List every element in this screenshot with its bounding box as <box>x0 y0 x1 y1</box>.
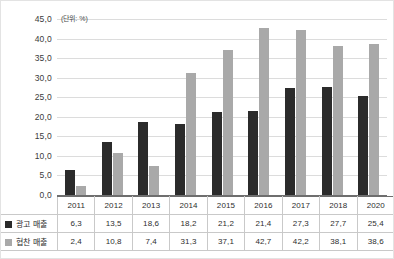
cell-2018-series-1: 38,1 <box>320 233 357 251</box>
bar-2015-series-1 <box>223 50 233 195</box>
bar-2015-series-0 <box>212 112 222 195</box>
cell-2011-series-1: 2,4 <box>58 233 95 251</box>
bar-2012-series-1 <box>113 153 123 195</box>
table-row: 광고 매출6,313,518,618,221,221,427,327,725,4 <box>1 215 394 233</box>
y-axis-tick-label: 10,0 <box>35 151 52 161</box>
bar-group <box>167 19 204 195</box>
cell-2016-series-0: 21,4 <box>245 215 282 233</box>
bar-2020-series-1 <box>369 44 379 195</box>
column-header-2011: 2011 <box>58 197 95 215</box>
y-axis-tick-label: 20,0 <box>35 112 52 122</box>
table-body: 광고 매출6,313,518,618,221,221,427,327,725,4… <box>1 215 394 251</box>
cell-2016-series-1: 42,7 <box>245 233 282 251</box>
cell-2012-series-0: 13,5 <box>95 215 132 233</box>
cell-2015-series-1: 37,1 <box>207 233 244 251</box>
bar-group <box>204 19 241 195</box>
bar-2014-series-1 <box>186 73 196 195</box>
column-header-2016: 2016 <box>245 197 282 215</box>
y-axis-tick-label: 40,0 <box>35 34 52 44</box>
table-corner-cell <box>1 197 58 215</box>
bar-group <box>240 19 277 195</box>
cell-2012-series-1: 10,8 <box>95 233 132 251</box>
bar-2016-series-0 <box>248 111 258 195</box>
column-header-2018: 2018 <box>320 197 357 215</box>
bar-group <box>57 19 94 195</box>
y-axis-tick-label: 35,0 <box>35 53 52 63</box>
y-axis-tick-label: 30,0 <box>35 73 52 83</box>
cell-2013-series-0: 18,6 <box>132 215 169 233</box>
plot-area: 0,05,010,015,020,025,030,035,040,045,0 (… <box>57 19 387 195</box>
bar-chart-figure: 0,05,010,015,020,025,030,035,040,045,0 (… <box>0 0 394 259</box>
cell-2011-series-0: 6,3 <box>58 215 95 233</box>
y-axis-tick-label: 45,0 <box>35 14 52 24</box>
bar-group <box>277 19 314 195</box>
bar-group <box>350 19 387 195</box>
legend-swatch-icon <box>5 221 12 228</box>
bar-2018-series-1 <box>333 46 343 195</box>
data-table: 201120122013201420152016201720182020 광고 … <box>1 196 394 251</box>
bar-2018-series-0 <box>322 87 332 195</box>
bar-group <box>130 19 167 195</box>
bar-2011-series-0 <box>65 170 75 195</box>
cell-2017-series-1: 42,2 <box>282 233 319 251</box>
bar-group <box>314 19 351 195</box>
column-header-2017: 2017 <box>282 197 319 215</box>
cell-2015-series-0: 21,2 <box>207 215 244 233</box>
cell-2020-series-1: 38,6 <box>357 233 394 251</box>
legend-label: 광고 매출 <box>16 220 47 229</box>
bar-2013-series-1 <box>149 166 159 195</box>
cell-2018-series-0: 27,7 <box>320 215 357 233</box>
y-axis-tick-label: 15,0 <box>35 131 52 141</box>
cell-2017-series-0: 27,3 <box>282 215 319 233</box>
column-header-2014: 2014 <box>170 197 207 215</box>
y-axis-tick-label: 5,0 <box>40 170 52 180</box>
table-row: 협찬 매출2,410,87,431,337,142,742,238,138,6 <box>1 233 394 251</box>
column-header-2015: 2015 <box>207 197 244 215</box>
bar-2016-series-1 <box>259 28 269 195</box>
bar-2017-series-1 <box>296 30 306 195</box>
legend-swatch-icon <box>5 239 12 246</box>
column-header-2013: 2013 <box>132 197 169 215</box>
legend-entry-0: 광고 매출 <box>1 215 58 233</box>
bar-series-container <box>57 19 387 195</box>
bar-2020-series-0 <box>358 96 368 195</box>
column-header-2012: 2012 <box>95 197 132 215</box>
legend-entry-1: 협찬 매출 <box>1 233 58 251</box>
cell-2014-series-0: 18,2 <box>170 215 207 233</box>
bar-group <box>94 19 131 195</box>
cell-2020-series-0: 25,4 <box>357 215 394 233</box>
bar-2011-series-1 <box>76 186 86 195</box>
bar-2012-series-0 <box>102 142 112 195</box>
legend-label: 협찬 매출 <box>16 238 47 247</box>
column-header-2020: 2020 <box>357 197 394 215</box>
table-header-row: 201120122013201420152016201720182020 <box>1 197 394 215</box>
bar-2013-series-0 <box>138 122 148 195</box>
bar-2017-series-0 <box>285 88 295 195</box>
bar-2014-series-0 <box>175 124 185 195</box>
cell-2013-series-1: 7,4 <box>132 233 169 251</box>
y-axis-tick-label: 25,0 <box>35 92 52 102</box>
cell-2014-series-1: 31,3 <box>170 233 207 251</box>
